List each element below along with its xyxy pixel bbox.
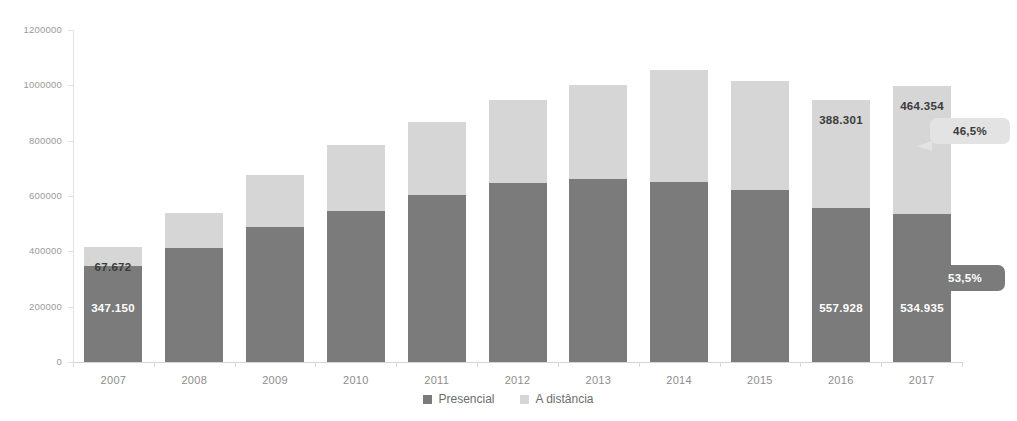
bar-segment-a-distancia[interactable] xyxy=(731,81,789,190)
y-axis-tick-label: 1000000 xyxy=(0,79,62,90)
x-axis-tick-mark xyxy=(396,362,397,367)
x-axis-tick-mark xyxy=(962,362,963,367)
x-axis-tick-label: 2015 xyxy=(720,374,800,386)
legend-item-label: A distância xyxy=(535,392,593,406)
y-axis-tick-label: 200000 xyxy=(0,301,62,312)
bar-value-label-presencial: 347.150 xyxy=(84,302,142,314)
bar-segment-presencial[interactable] xyxy=(165,248,223,362)
legend-swatch-icon xyxy=(423,395,432,404)
bar-segment-a-distancia[interactable] xyxy=(569,85,627,179)
bar-segment-presencial[interactable] xyxy=(569,179,627,362)
bar-segment-a-distancia[interactable] xyxy=(246,175,304,228)
y-axis-tick-label: 800000 xyxy=(0,135,62,146)
x-axis-tick-mark xyxy=(720,362,721,367)
annotation-callout-distancia-tail xyxy=(917,141,932,151)
x-axis-tick-mark xyxy=(477,362,478,367)
bar-stack[interactable] xyxy=(408,59,466,421)
x-axis-tick-label: 2016 xyxy=(801,374,881,386)
legend-swatch-icon xyxy=(520,395,529,404)
bar-value-label-a-distancia: 67.672 xyxy=(84,261,142,273)
x-axis-tick-mark xyxy=(881,362,882,367)
bar-segment-presencial[interactable] xyxy=(812,208,870,362)
bar-value-label-a-distancia: 388.301 xyxy=(812,114,870,126)
x-axis-tick-mark xyxy=(800,362,801,367)
x-axis-tick-label: 2012 xyxy=(478,374,558,386)
x-axis-tick-mark xyxy=(558,362,559,367)
y-axis-tick-label: 600000 xyxy=(0,190,62,201)
x-axis-tick-mark xyxy=(73,362,74,367)
bar-segment-a-distancia[interactable] xyxy=(489,100,547,183)
bar-stack[interactable] xyxy=(165,59,223,421)
y-axis-line xyxy=(73,30,74,362)
bar-segment-presencial[interactable] xyxy=(327,211,385,362)
bar-stack[interactable] xyxy=(569,59,627,421)
x-axis-tick-mark xyxy=(315,362,316,367)
stacked-bar-chart: 020000040000060000080000010000001200000 … xyxy=(0,0,1017,421)
annotation-callout-presencial-text: 53,5% xyxy=(948,272,982,284)
annotation-callout-distancia-text: 46,5% xyxy=(953,125,987,137)
bar-stack[interactable] xyxy=(650,59,708,421)
x-axis-tick-mark xyxy=(154,362,155,367)
y-axis-tick-label: 0 xyxy=(0,356,62,367)
bar-value-label-presencial: 557.928 xyxy=(812,302,870,314)
x-axis-tick-label: 2007 xyxy=(73,374,153,386)
bar-value-label-a-distancia: 464.354 xyxy=(893,100,951,112)
x-axis-tick-label: 2010 xyxy=(316,374,396,386)
bar-segment-presencial[interactable] xyxy=(408,195,466,362)
x-axis-tick-label: 2014 xyxy=(639,374,719,386)
legend-item[interactable]: A distância xyxy=(520,392,593,406)
legend-item-label: Presencial xyxy=(438,392,494,406)
annotation-callout-presencial: 53,5% xyxy=(925,265,1005,291)
x-axis-tick-label: 2008 xyxy=(154,374,234,386)
bar-segment-a-distancia[interactable] xyxy=(650,70,708,182)
bar-segment-a-distancia[interactable] xyxy=(165,213,223,248)
bar-segment-presencial[interactable] xyxy=(650,182,708,362)
x-axis-tick-mark xyxy=(639,362,640,367)
x-axis-tick-label: 2017 xyxy=(882,374,962,386)
bar-stack[interactable] xyxy=(327,59,385,421)
bar-value-label-presencial: 534.935 xyxy=(893,302,951,314)
annotation-callout-distancia: 46,5% xyxy=(930,118,1010,144)
bar-stack[interactable] xyxy=(731,59,789,421)
bar-stack[interactable]: 557.928388.301 xyxy=(812,59,870,421)
bar-stack[interactable]: 534.935464.354 xyxy=(893,59,951,421)
bar-segment-presencial[interactable] xyxy=(489,183,547,362)
annotation-callout-presencial-tail xyxy=(912,288,927,298)
y-axis-tick-label: 1200000 xyxy=(0,24,62,35)
bar-segment-a-distancia[interactable] xyxy=(408,122,466,195)
bar-stack[interactable] xyxy=(246,59,304,421)
x-axis-line xyxy=(73,362,962,363)
bar-segment-a-distancia[interactable] xyxy=(327,145,385,211)
chart-legend: PresencialA distância xyxy=(0,392,1017,406)
bar-stack[interactable]: 347.15067.672 xyxy=(84,59,142,421)
bar-stack[interactable] xyxy=(489,59,547,421)
y-axis-tick-label: 400000 xyxy=(0,245,62,256)
x-axis-tick-label: 2009 xyxy=(235,374,315,386)
legend-item[interactable]: Presencial xyxy=(423,392,494,406)
bar-segment-presencial[interactable] xyxy=(731,190,789,362)
x-axis-tick-mark xyxy=(235,362,236,367)
x-axis-tick-label: 2011 xyxy=(397,374,477,386)
x-axis-tick-label: 2013 xyxy=(558,374,638,386)
bar-segment-presencial[interactable] xyxy=(246,227,304,362)
